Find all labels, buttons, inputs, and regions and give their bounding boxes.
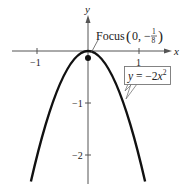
parabola-chart: x y −1 1 −1 −2 Focus ( 0, − 1 8 ) y = −2… [0,0,182,189]
x-axis-label: x [173,45,179,57]
focus-word: Focus [96,29,125,43]
callout-leader-a [126,84,137,99]
focus-fraction-numerator: 1 [152,27,156,36]
x-axis-arrow-icon [164,49,172,54]
x-tick-label: −1 [30,57,41,68]
eq-rhs: = −2 [133,70,158,82]
y-axis-arrow-icon [86,15,91,23]
focus-label: Focus ( 0, − 1 8 ) [96,27,163,45]
focus-paren-close: ) [158,28,163,45]
y-tick-label: −1 [72,98,83,109]
focus-fraction-denominator: 8 [152,36,156,45]
eq-exponent: 2 [163,68,167,77]
y-axis-label: y [84,3,90,15]
focus-point [85,55,91,61]
equation-callout: y = −2x2 [125,67,171,100]
focus-coord: 0, − [132,29,151,43]
equation-label: y = −2x2 [127,68,167,83]
focus-paren-open: ( [126,28,131,45]
y-tick-label: −2 [72,150,83,161]
